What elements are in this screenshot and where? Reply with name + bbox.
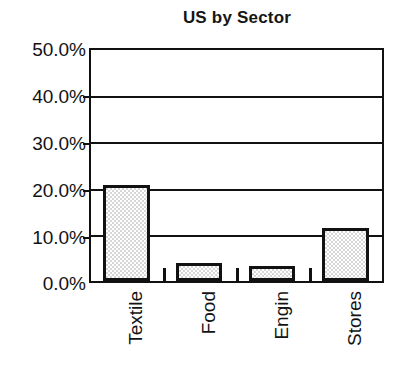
bar-food	[176, 263, 222, 282]
gridline-30	[91, 142, 382, 144]
bar-stores	[322, 228, 369, 281]
gridline-40	[91, 96, 382, 98]
bar-engin	[249, 266, 295, 281]
y-tick-label-20: 20.0%	[2, 181, 86, 200]
y-tick-label-10: 10.0%	[2, 228, 86, 247]
bar-textile	[103, 185, 150, 281]
y-tick-label-30: 30.0%	[2, 134, 86, 153]
x-label-stores: Stores	[345, 291, 364, 346]
bar-chart: US by Sector 50.0% 40.0% 30.0% 20.0% 10.…	[0, 0, 401, 373]
x-tick-3	[309, 268, 312, 281]
x-label-engin: Engin	[272, 291, 291, 340]
x-label-food: Food	[199, 291, 218, 334]
x-axis: Textile Food Engin Stores	[0, 283, 401, 373]
chart-title: US by Sector	[89, 8, 385, 28]
y-tick-label-40: 40.0%	[2, 87, 86, 106]
y-tick-label-50: 50.0%	[2, 40, 86, 59]
plot-area	[89, 48, 384, 283]
x-label-textile: Textile	[126, 291, 145, 345]
x-tick-2	[236, 268, 239, 281]
x-tick-1	[163, 268, 166, 281]
